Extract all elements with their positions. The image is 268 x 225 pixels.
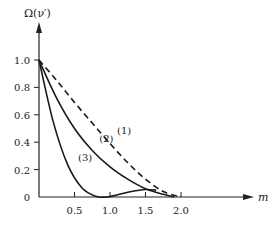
- curve-label-1: (1): [117, 125, 131, 136]
- y-tick-label: 0: [24, 192, 30, 203]
- curve-label-3: (3): [78, 152, 92, 163]
- y-axis-arrow-icon: [36, 22, 42, 33]
- x-tick-label: 1.0: [102, 205, 118, 216]
- curve-label-2: (2): [99, 133, 113, 144]
- x-tick-label: 0.5: [67, 205, 83, 216]
- chart: 0.51.01.52.0 00.20.40.60.81.0 m Ω(ν′) (1…: [0, 0, 268, 225]
- y-tick-label: 1.0: [14, 55, 30, 66]
- axes: [36, 22, 254, 200]
- x-axis-arrow-icon: [243, 194, 254, 200]
- y-tick-label: 0.2: [14, 165, 30, 176]
- y-axis-title: Ω(ν′): [24, 7, 51, 20]
- x-tick-label: 1.5: [138, 205, 154, 216]
- y-ticks: 00.20.40.60.81.0: [14, 55, 39, 203]
- y-tick-label: 0.6: [14, 110, 30, 121]
- y-tick-label: 0.8: [14, 82, 30, 93]
- series-group: [39, 60, 181, 197]
- series-line-1: [39, 60, 181, 197]
- y-tick-label: 0.4: [14, 137, 30, 148]
- series-line-2: [39, 60, 174, 197]
- x-axis-title: m: [258, 191, 268, 204]
- x-tick-label: 2.0: [173, 205, 189, 216]
